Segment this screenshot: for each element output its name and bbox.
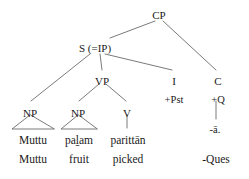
gloss-question-marker: -Ques <box>202 153 229 165</box>
node-c: C <box>214 76 221 87</box>
branch-cp-to-c <box>163 21 216 70</box>
node-s-ip: S (=IP) <box>79 43 111 54</box>
gloss-word: picked <box>113 153 144 165</box>
branch-s-to-np1 <box>31 54 90 101</box>
feature-past-tense: +Pst <box>165 94 184 105</box>
node-cp: CP <box>152 10 165 21</box>
node-vp: VP <box>95 76 109 87</box>
branch-s-to-vp <box>100 54 102 70</box>
node-np-subject: NP <box>23 108 37 119</box>
feature-question: +Q <box>211 94 225 105</box>
branch-s-to-i <box>105 54 172 70</box>
node-np-object: NP <box>71 108 85 119</box>
terminal-word: Muttu <box>19 134 47 146</box>
node-i: I <box>172 76 176 87</box>
terminal-word: pal̠am <box>65 134 93 146</box>
terminal-word: parittān <box>110 134 145 146</box>
gloss-word: fruit <box>69 153 89 165</box>
gloss-word: Muttu <box>19 153 47 165</box>
branch-cp-to-s <box>110 21 155 38</box>
node-v: V <box>123 108 131 119</box>
syntax-tree-figure: CP S (=IP) VP I C NP NP V +Pst +Q -ā. Mu… <box>0 0 249 179</box>
morpheme-question-suffix: -ā. <box>210 124 221 135</box>
